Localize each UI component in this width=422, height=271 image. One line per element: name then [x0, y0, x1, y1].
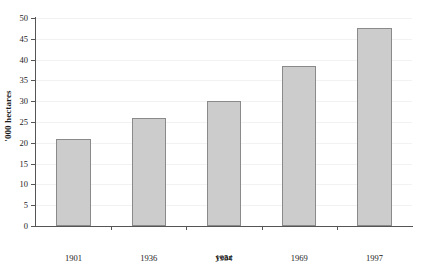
y-axis-tick-label: 15	[20, 159, 29, 168]
gridline	[36, 60, 412, 61]
y-axis-tick: 15	[31, 164, 36, 165]
y-axis-tick: 40	[31, 60, 36, 61]
x-axis-tick	[186, 226, 187, 230]
y-axis-tick-label: 0	[24, 222, 28, 231]
y-axis-title: '000 hectares	[0, 0, 16, 232]
y-axis-tick-label: 25	[20, 118, 29, 127]
y-axis-tick: 35	[31, 80, 36, 81]
y-axis-tick-label: 50	[20, 14, 29, 23]
y-axis-tick: 10	[31, 184, 36, 185]
y-axis-tick: 20	[31, 143, 36, 144]
y-axis-tick: 0	[31, 226, 36, 227]
bar	[357, 28, 392, 226]
y-axis-tick-label: 45	[20, 35, 29, 44]
y-axis-tick: 30	[31, 101, 36, 102]
x-axis-tick	[337, 226, 338, 230]
y-axis-tick-label: 20	[20, 139, 29, 148]
bar	[56, 139, 91, 226]
x-axis-tick	[262, 226, 263, 230]
y-axis-tick: 50	[31, 18, 36, 19]
y-axis-title-label: '000 hectares	[3, 90, 13, 141]
x-axis-tick	[111, 226, 112, 230]
bar-chart: '000 hectares 05101520253035404550 19011…	[0, 0, 422, 271]
x-axis-line	[35, 226, 413, 227]
y-axis-tick-label: 35	[20, 76, 29, 85]
y-axis-tick-label: 5	[24, 201, 28, 210]
bar	[132, 118, 167, 226]
bar	[282, 66, 317, 226]
bar	[207, 101, 242, 226]
y-axis-tick: 45	[31, 39, 36, 40]
x-axis-title: year	[36, 252, 412, 262]
gridline	[36, 39, 412, 40]
gridline	[36, 18, 412, 19]
y-axis-tick-label: 10	[20, 180, 29, 189]
y-axis-tick-label: 40	[20, 55, 29, 64]
plot-area: 05101520253035404550 1901193619541969199…	[36, 18, 412, 226]
y-axis-tick: 25	[31, 122, 36, 123]
gridline	[36, 80, 412, 81]
y-axis-tick: 5	[31, 205, 36, 206]
y-axis-tick-label: 30	[20, 97, 29, 106]
